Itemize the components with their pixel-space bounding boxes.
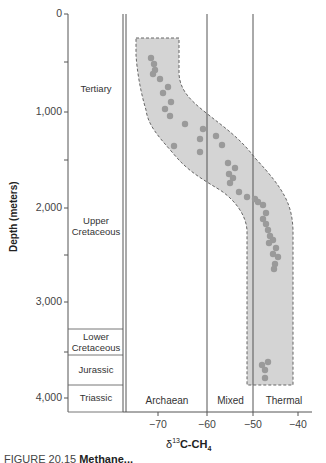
zone-mixed: Mixed bbox=[208, 395, 253, 406]
x-axis-label: δ13C-CH4 bbox=[166, 437, 211, 452]
y-tick-3000: 3,000 bbox=[18, 295, 62, 307]
stratum-upper-line1: Upper bbox=[68, 215, 124, 226]
zone-archaean: Archaean bbox=[128, 395, 206, 406]
x-ticks bbox=[158, 412, 298, 416]
figure-caption: FIGURE 20.15 Methane... bbox=[4, 453, 133, 463]
stratum-upper-line2: Cretaceous bbox=[68, 226, 124, 237]
caption-text: Methane... bbox=[79, 453, 133, 463]
x-tick-minus60: −60 bbox=[192, 418, 222, 430]
x-label-main: C-CH bbox=[180, 438, 208, 450]
stratum-jurassic: Jurassic bbox=[68, 364, 124, 375]
stratum-lower-cretaceous: Lower Cretaceous bbox=[68, 331, 124, 353]
y-tick-4000: 4,000 bbox=[18, 391, 62, 403]
x-tick-minus50: −50 bbox=[238, 418, 268, 430]
stratum-tertiary: Tertiary bbox=[70, 83, 122, 94]
stratum-triassic: Triassic bbox=[68, 392, 124, 403]
x-tick-minus70: −70 bbox=[143, 418, 173, 430]
stratum-lower-line1: Lower bbox=[68, 331, 124, 342]
caption-figure-number: FIGURE 20.15 bbox=[4, 453, 76, 463]
data-envelope bbox=[136, 38, 293, 385]
y-axis-label: Depth (meters) bbox=[8, 181, 19, 252]
y-tick-1000: 1,000 bbox=[18, 105, 62, 117]
x-label-sub: 4 bbox=[207, 445, 211, 452]
y-tick-2000: 2,000 bbox=[18, 201, 62, 213]
y-tick-0: 0 bbox=[18, 7, 62, 19]
stratum-upper-cretaceous: Upper Cretaceous bbox=[68, 215, 124, 237]
stratum-lower-line2: Cretaceous bbox=[68, 342, 124, 353]
zone-thermal: Thermal bbox=[254, 395, 314, 406]
x-tick-minus40: −40 bbox=[283, 418, 313, 430]
x-label-sup: 13 bbox=[172, 437, 180, 444]
